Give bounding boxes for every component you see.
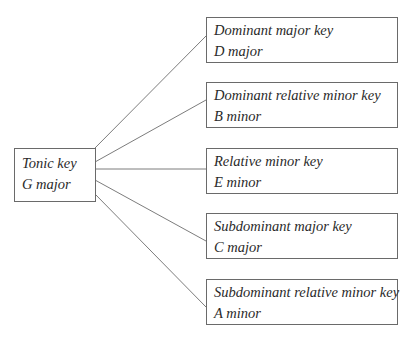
subdominant-major-key-box: Subdominant major key C major [206, 213, 398, 259]
key-value: E minor [214, 172, 391, 193]
tonic-key-box: Tonic key G major [14, 148, 96, 202]
key-title: Dominant major key [214, 20, 391, 41]
tonic-key-title: Tonic key [22, 153, 89, 174]
key-value: C major [214, 237, 391, 258]
subdominant-relative-minor-key-box: Subdominant relative minor key A minor [206, 279, 398, 325]
dominant-relative-minor-key-box: Dominant relative minor key B minor [206, 82, 398, 128]
key-title: Dominant relative minor key [214, 85, 391, 106]
key-title: Subdominant relative minor key [214, 282, 391, 303]
key-value: D major [214, 41, 391, 62]
key-title: Subdominant major key [214, 216, 391, 237]
key-title: Relative minor key [214, 151, 391, 172]
key-value: B minor [214, 106, 391, 127]
key-value: A minor [214, 303, 391, 324]
relative-minor-key-box: Relative minor key E minor [206, 148, 398, 194]
tonic-key-value: G major [22, 174, 89, 195]
dominant-major-key-box: Dominant major key D major [206, 17, 398, 63]
